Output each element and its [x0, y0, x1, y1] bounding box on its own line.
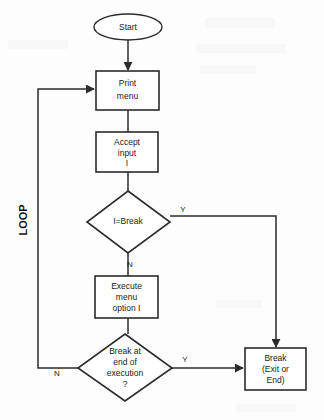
node-execute-option[interactable]: Execute menu option I: [95, 276, 158, 318]
decision-break-label: I=Break: [113, 216, 143, 226]
print-menu-label-line1: Print: [119, 78, 137, 88]
flowchart-svg: Start Print menu Accept input I I=Break …: [0, 0, 324, 420]
edge-decision-end-no-loop-to-print-menu: [38, 89, 94, 368]
edge-label-end-no: N: [54, 369, 60, 378]
start-label: Start: [119, 22, 138, 32]
print-menu-label-line2: menu: [117, 91, 139, 101]
edge-label-end-yes: Y: [182, 355, 188, 364]
decision-end-label-line2: end of: [113, 357, 137, 367]
node-break-exit[interactable]: Break (Exit or End): [245, 348, 306, 390]
node-print-menu[interactable]: Print menu: [96, 71, 159, 110]
decision-end-label-line1: Break at: [109, 346, 141, 356]
execute-option-label-line3: option I: [113, 303, 141, 313]
accept-input-label-line2: input: [118, 148, 137, 158]
node-accept-input[interactable]: Accept input I: [96, 132, 158, 172]
break-exit-label-line3: End): [267, 375, 285, 385]
node-start[interactable]: Start: [94, 14, 162, 40]
flowchart-canvas: Start Print menu Accept input I I=Break …: [0, 0, 324, 420]
edge-decision-break-yes-to-break-exit: [170, 216, 276, 347]
loop-annotation-label: LOOP: [17, 204, 29, 235]
break-exit-label-line1: Break: [264, 353, 287, 363]
execute-option-label-line1: Execute: [111, 281, 142, 291]
node-decision-end[interactable]: Break at end of execution ?: [78, 334, 172, 401]
edge-label-break-no: N: [127, 260, 133, 269]
decision-end-label-line3: execution: [107, 368, 144, 378]
edge-label-break-yes: Y: [180, 205, 186, 214]
accept-input-label-line3: I: [126, 158, 128, 168]
execute-option-label-line2: menu: [116, 292, 138, 302]
node-decision-break[interactable]: I=Break: [87, 191, 170, 253]
accept-input-label-line1: Accept: [114, 137, 141, 147]
break-exit-label-line2: (Exit or: [262, 364, 289, 374]
decision-end-label-line4: ?: [123, 379, 128, 389]
